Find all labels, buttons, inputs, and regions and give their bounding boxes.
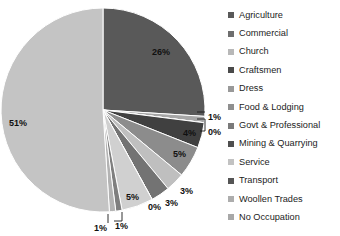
- pie-slice-label: 0%: [148, 203, 161, 212]
- legend-swatch-icon: [228, 86, 234, 92]
- legend-item-label: Church: [239, 47, 269, 56]
- legend-item-label: Craftsmen: [239, 66, 281, 75]
- pie-slice-label: 3%: [180, 187, 193, 196]
- pie-svg: [0, 0, 215, 236]
- chart-legend: AgricultureCommercialChurchCraftsmenDres…: [228, 6, 340, 232]
- pie-slice-label: 1%: [94, 224, 107, 233]
- legend-swatch-icon: [228, 104, 234, 110]
- pie-slice-label: 5%: [126, 193, 139, 202]
- legend-swatch-icon: [228, 12, 234, 18]
- pie-slice-label: 1%: [115, 222, 128, 231]
- legend-item[interactable]: Church: [228, 43, 340, 61]
- legend-item[interactable]: Commercial: [228, 24, 340, 42]
- legend-item[interactable]: Transport: [228, 172, 340, 190]
- legend-item-label: Woollen Trades: [239, 195, 303, 204]
- legend-item-label: Service: [239, 158, 270, 167]
- pie-slice-label: 51%: [9, 119, 27, 128]
- legend-item-label: Food & Lodging: [239, 103, 304, 112]
- legend-item[interactable]: Govt & Professional: [228, 116, 340, 134]
- legend-item-label: Govt & Professional: [239, 121, 320, 130]
- legend-swatch-icon: [228, 141, 234, 147]
- pie-slice-label: 26%: [152, 48, 170, 57]
- pie-plot-area: 26%1%0%4%5%3%3%0%5%1%1%51%: [0, 0, 215, 236]
- pie-slice[interactable]: [103, 8, 205, 116]
- legend-item-label: Commercial: [239, 29, 288, 38]
- legend-swatch-icon: [228, 178, 234, 184]
- leader-transport: [114, 212, 122, 221]
- pie-slice-label: 1%: [208, 113, 221, 122]
- legend-swatch-icon: [228, 214, 234, 220]
- legend-swatch-icon: [228, 159, 234, 165]
- pie-slice-label: 5%: [173, 150, 186, 159]
- legend-item-label: Mining & Quarrying: [239, 139, 318, 148]
- pie-slice-label: 3%: [165, 199, 178, 208]
- legend-item[interactable]: Agriculture: [228, 6, 340, 24]
- legend-swatch-icon: [228, 196, 234, 202]
- legend-item[interactable]: Service: [228, 153, 340, 171]
- legend-item[interactable]: Dress: [228, 80, 340, 98]
- legend-swatch-icon: [228, 31, 234, 37]
- legend-item-label: Transport: [239, 176, 278, 185]
- legend-item[interactable]: Food & Lodging: [228, 98, 340, 116]
- legend-swatch-icon: [228, 67, 234, 73]
- legend-item-label: Dress: [239, 84, 263, 93]
- legend-item[interactable]: Craftsmen: [228, 61, 340, 79]
- pie-chart: 26%1%0%4%5%3%3%0%5%1%1%51% AgricultureCo…: [0, 0, 340, 236]
- legend-item[interactable]: Mining & Quarrying: [228, 135, 340, 153]
- legend-swatch-icon: [228, 49, 234, 55]
- legend-swatch-icon: [228, 123, 234, 129]
- pie-slice-label: 0%: [208, 128, 221, 137]
- pie-slices: [1, 8, 205, 212]
- pie-slice[interactable]: [1, 8, 109, 212]
- pie-slice-label: 4%: [183, 129, 196, 138]
- legend-item[interactable]: Woollen Trades: [228, 190, 340, 208]
- legend-item[interactable]: No Occupation: [228, 208, 340, 226]
- legend-item-label: Agriculture: [239, 11, 283, 20]
- legend-item-label: No Occupation: [239, 213, 300, 222]
